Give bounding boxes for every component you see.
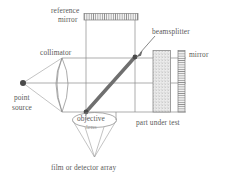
label-objective-lens-line1: objective <box>77 114 106 123</box>
label-point-source-line1: point <box>14 93 31 102</box>
collimator-lens <box>56 58 68 112</box>
label-collimator: collimator <box>40 48 72 57</box>
label-point-source-line2: source <box>12 103 33 112</box>
label-beamsplitter: beamsplitter <box>152 27 190 36</box>
beamsplitter-callout-arrow <box>136 36 156 58</box>
point-source-dot <box>20 80 26 86</box>
label-objective-lens-line2: lens <box>86 123 97 130</box>
part-under-test-block <box>153 51 171 113</box>
label-reference-mirror-line1: reference <box>51 6 80 15</box>
label-part-under-test: part under test <box>136 118 181 127</box>
label-detector-array: film or detector array <box>51 163 116 172</box>
label-reference-mirror-line2: mirror <box>58 15 78 24</box>
interferometer-figure: reference mirror beamsplitter mirror col… <box>0 0 226 179</box>
return-mirror-bar <box>178 51 185 113</box>
beamsplitter-plate <box>84 55 138 115</box>
label-mirror: mirror <box>189 50 209 59</box>
reference-mirror <box>84 14 138 21</box>
figure-canvas: reference mirror beamsplitter mirror col… <box>0 0 226 179</box>
